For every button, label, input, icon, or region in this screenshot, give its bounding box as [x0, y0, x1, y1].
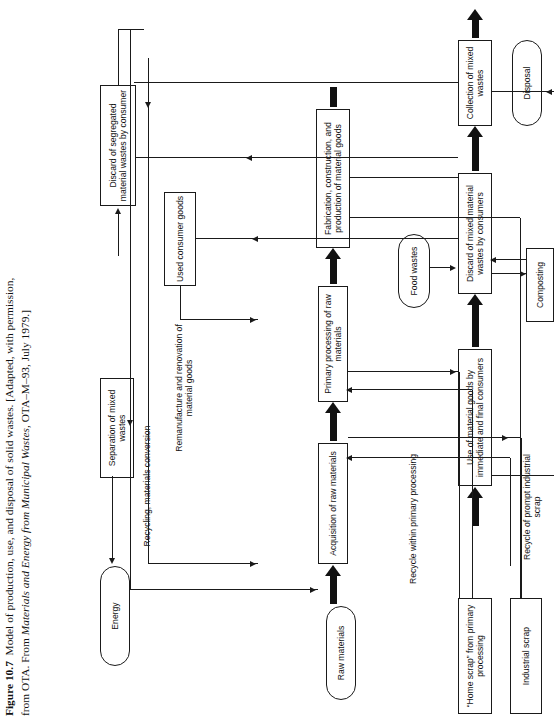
connector-remanufacture-h — [180, 286, 181, 320]
edge-label-text: Recycling, materials conversion — [142, 426, 152, 547]
node-discard-mixed[interactable]: Discard of mixed material wastes by cons… — [458, 173, 492, 294]
connector-primary-to-homescrap — [348, 371, 458, 372]
node-label: “Home scrap” from primary processing — [465, 601, 486, 711]
node-label: Raw materials — [336, 626, 346, 680]
connector-industrial-scrap-in — [348, 437, 520, 438]
node-raw-materials[interactable]: Raw materials — [326, 606, 356, 700]
main-flow-arrowhead — [325, 402, 341, 413]
arrowhead-prompt-up — [346, 456, 352, 462]
node-composting[interactable]: Composting — [526, 248, 554, 322]
connector-remanufacture-down — [180, 319, 258, 320]
node-food-wastes[interactable]: Food wastes — [398, 234, 430, 308]
node-label: Primary processing of raw materials — [323, 289, 344, 399]
connector-discard-seg-out — [118, 30, 119, 85]
node-collection-mixed[interactable]: Collection of mixed wastes — [458, 40, 492, 126]
main-flow-arrow — [330, 413, 337, 441]
connector-recycling-bus — [130, 30, 131, 590]
connector-recycling-down — [130, 589, 318, 590]
node-label: Fabrication, construction, and productio… — [323, 112, 344, 245]
connector-recycling-bus-entry — [130, 29, 144, 30]
main-flow-arrow — [472, 305, 479, 347]
edge-label-text: Recycle of prompt industrial scrap — [522, 454, 542, 560]
connector-homescrap-back-v — [348, 389, 472, 390]
connector-composting-back — [492, 259, 526, 260]
connector-discard-seg-feed — [258, 157, 458, 158]
main-flow-arrow — [472, 137, 479, 171]
arrowhead-homescrap-up — [346, 388, 352, 394]
connector-litter-to-collection-v — [492, 91, 554, 92]
connector-separation-to-energy — [112, 476, 113, 558]
node-energy[interactable]: Energy — [100, 566, 130, 666]
node-label: Acquisition of raw materials — [328, 451, 338, 556]
arrowhead-secondary-bus-in — [145, 102, 151, 108]
connector-use-to-used-goods — [258, 238, 458, 239]
node-label: Composting — [535, 262, 545, 308]
node-fabrication[interactable]: Fabrication, construction, and productio… — [316, 109, 350, 248]
arrowhead-secondary-bus — [250, 562, 256, 568]
node-label: Collection of mixed wastes — [465, 43, 486, 123]
figure-number: Figure 10.7 — [3, 661, 15, 716]
flowchart-region: Raw materials Acquisition of raw materia… — [78, 0, 554, 726]
node-acquisition[interactable]: Acquisition of raw materials — [318, 443, 348, 564]
connector-secondary-bus — [148, 58, 149, 564]
arrowhead-composting-back — [490, 258, 496, 264]
arrowhead-recycling-to-primary — [310, 588, 316, 594]
node-used-consumer-goods[interactable]: Used consumer goods — [164, 192, 196, 286]
node-label: Separation of mixed wastes — [107, 381, 128, 475]
edge-label-recycle-prompt: Recycle of prompt industrial scrap — [522, 448, 543, 566]
main-flow-arrow — [330, 576, 337, 604]
node-label: Use of material goods by immediate and f… — [465, 352, 486, 483]
connector-used-goods-down — [196, 238, 258, 239]
node-label: Energy — [110, 602, 120, 629]
connector-discard-seg-out-v — [118, 29, 132, 30]
main-flow-arrowhead — [325, 565, 341, 576]
figure-credit-source: Materials and Energy from Municipal Wast… — [19, 425, 31, 635]
arrowhead-discard-to-composting — [520, 272, 526, 278]
node-disposal[interactable]: Disposal — [512, 40, 542, 126]
node-industrial-scrap[interactable]: Industrial scrap — [510, 598, 542, 714]
edge-label-text: Recycle within primary processing — [408, 454, 418, 584]
node-label: Industrial scrap — [521, 627, 531, 685]
node-home-scrap[interactable]: “Home scrap” from primary processing — [458, 598, 492, 714]
arrowhead-discard-seg-up — [246, 156, 252, 162]
connector-fabrication-down — [350, 177, 458, 178]
flowchart-canvas: Raw materials Acquisition of raw materia… — [78, 0, 554, 726]
edge-label-remanufacture: Remanufacture and renovation of material… — [174, 322, 195, 454]
connector-foodwastes-v — [430, 267, 452, 268]
node-label: Food wastes — [409, 247, 419, 296]
arrowhead-industrial-scrap-in — [502, 436, 508, 442]
figure-caption-text: Figure 10.7 Model of production, use, an… — [1, 276, 33, 716]
node-label: Disposal — [522, 67, 532, 100]
node-primary-processing[interactable]: Primary processing of raw materials — [318, 286, 348, 402]
node-use[interactable]: Use of material goods by immediate and f… — [458, 349, 492, 486]
arrowhead-litter-up — [546, 90, 552, 96]
figure-title: Model of production, use, and disposal o… — [3, 405, 15, 656]
node-label: Used consumer goods — [175, 196, 185, 282]
main-flow-arrowhead — [467, 9, 483, 20]
main-flow-arrow — [472, 20, 479, 38]
main-flow-arrow — [330, 259, 337, 284]
figure-caption: Figure 10.7 Model of production, use, an… — [0, 0, 78, 726]
arrowhead-energy — [109, 559, 115, 565]
node-separation-mixed[interactable]: Separation of mixed wastes — [100, 378, 134, 478]
arrowhead-recycling-bus — [127, 420, 133, 426]
main-flow-arrow — [330, 87, 337, 107]
node-label: Discard of mixed material wastes by cons… — [465, 176, 486, 291]
node-label: Discard of segregated material wastes by… — [108, 88, 129, 203]
connector-secondary-bus-down — [148, 563, 258, 564]
arrowhead-remanufacture — [250, 318, 256, 324]
edge-label-text: Remanufacture and renovation of material… — [174, 324, 194, 452]
edge-label-recycle-within: Recycle within primary processing — [408, 424, 418, 614]
arrowhead-primary-to-homescrap — [450, 370, 456, 376]
connector-use-to-littering — [492, 475, 554, 476]
connector-homescrap-h — [459, 372, 460, 598]
main-flow-arrowhead — [325, 248, 341, 259]
figure-caption-region: Figure 10.7 Model of production, use, an… — [0, 0, 78, 726]
connector-homescrap-back-h — [472, 390, 473, 598]
figure-credit-suffix: OTA–M–93, July 1979.] — [19, 310, 31, 425]
connector-discard-seg-down — [136, 157, 260, 158]
main-flow-arrowhead — [467, 487, 483, 498]
main-flow-arrowhead — [467, 126, 483, 137]
connector-into-discard-seg — [118, 212, 119, 256]
connector-industrial-scrap-h — [521, 438, 522, 598]
